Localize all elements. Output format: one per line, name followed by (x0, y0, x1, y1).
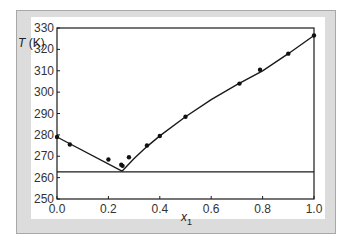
x-tick-label: 0.6 (203, 202, 220, 216)
data-point (237, 81, 241, 85)
data-point (145, 143, 149, 147)
phase-diagram-chart: 250260270280290300310320330 0.00.20.40.6… (0, 0, 351, 246)
data-point (312, 33, 316, 37)
fit-lines (57, 36, 314, 172)
plot-frame (57, 28, 314, 199)
liquidus-left (57, 137, 122, 171)
y-axis-title: T (K) (18, 36, 45, 50)
x-axis-sub: 1 (187, 217, 192, 227)
data-point (127, 155, 131, 159)
data-point (183, 115, 187, 119)
y-tick-label: 300 (34, 85, 54, 99)
data-point (158, 134, 162, 138)
data-point (286, 51, 290, 55)
x-tick-label: 0.4 (151, 202, 168, 216)
data-point (68, 142, 72, 146)
y-axis-unit: (K) (25, 36, 44, 50)
y-tick-label: 280 (34, 128, 54, 142)
y-tick-label: 290 (34, 107, 54, 121)
liquidus-right (122, 36, 314, 172)
x-tick-label: 0.2 (100, 202, 117, 216)
y-tick-label: 330 (34, 21, 54, 35)
plot-border (57, 28, 314, 199)
x-tick-label: 1.0 (306, 202, 323, 216)
y-tick-label: 260 (34, 171, 54, 185)
x-tick-label: 0.0 (49, 202, 66, 216)
data-point (258, 67, 262, 71)
y-tick-label: 270 (34, 149, 54, 163)
data-point (106, 157, 110, 161)
x-axis-title: x1 (180, 210, 192, 227)
data-point (120, 164, 124, 168)
x-tick-label: 0.8 (254, 202, 271, 216)
data-point (55, 135, 59, 139)
y-tick-label: 310 (34, 64, 54, 78)
data-points (55, 33, 316, 168)
